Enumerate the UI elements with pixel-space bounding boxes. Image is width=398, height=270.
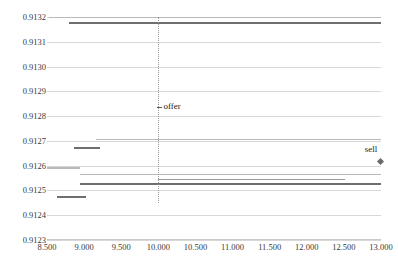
gridline-horizontal	[47, 190, 381, 191]
gridline-horizontal	[47, 141, 381, 142]
vertical-marker-line	[158, 17, 159, 203]
annotation-label-sell: sell	[365, 145, 378, 154]
line-segment	[80, 183, 381, 185]
y-axis-tick-label: 0.9132	[0, 13, 46, 22]
gridline-horizontal	[47, 42, 381, 43]
y-axis-tick-label: 0.9126	[0, 162, 46, 171]
x-axis-tick-label: 13.000	[358, 243, 398, 252]
gridline-horizontal	[47, 166, 381, 167]
y-axis-tick-label: 0.9130	[0, 63, 46, 72]
line-segment	[49, 17, 381, 18]
gridline-horizontal	[47, 67, 381, 68]
line-segment	[57, 196, 87, 198]
y-axis-tick-label: 0.9128	[0, 112, 46, 121]
y-axis-tick-label: 0.9124	[0, 211, 46, 220]
y-axis-tick-label: 0.9131	[0, 38, 46, 47]
y-axis-tick-label: 0.9129	[0, 87, 46, 96]
gridline-horizontal	[47, 240, 381, 241]
line-segment	[74, 147, 101, 149]
gridline-horizontal	[47, 215, 381, 216]
line-segment	[80, 174, 381, 175]
plot-area: offersell	[47, 17, 381, 240]
y-axis-tick-label: 0.9125	[0, 186, 46, 195]
line-segment	[69, 22, 381, 24]
line-segment	[47, 167, 80, 169]
annotation-label-offer: offer	[164, 102, 181, 111]
y-axis-tick-label: 0.9127	[0, 137, 46, 146]
x-axis-line	[47, 239, 381, 240]
gridline-horizontal	[47, 91, 381, 92]
line-segment	[158, 179, 345, 180]
sell-diamond-marker	[377, 158, 384, 165]
line-segment	[96, 139, 381, 140]
offer-tick-marker	[157, 107, 162, 108]
gridline-horizontal	[47, 116, 381, 117]
